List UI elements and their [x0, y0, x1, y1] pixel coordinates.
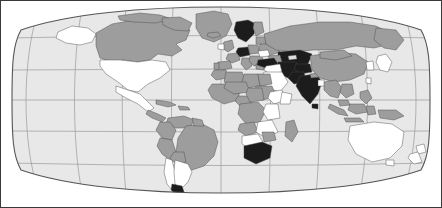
region-sulawesi [366, 106, 376, 115]
region-kazakh-lake [288, 55, 297, 60]
world-map-figure [0, 0, 442, 208]
region-ireland [218, 44, 224, 50]
region-zimbabwe [262, 132, 276, 142]
region-taiwan [366, 78, 371, 84]
region-chad-car [246, 88, 264, 102]
region-poland [248, 45, 260, 54]
region-malaysia [338, 100, 350, 106]
region-korea [366, 61, 374, 70]
region-egypt [258, 74, 272, 86]
region-portugal [214, 63, 219, 70]
region-somalia [280, 92, 292, 104]
world-map-svg [0, 0, 442, 208]
region-sri-lanka [312, 104, 318, 109]
region-tasmania [386, 160, 394, 166]
